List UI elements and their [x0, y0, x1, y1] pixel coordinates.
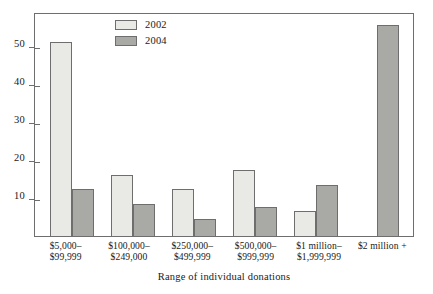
plot-frame: 20022004 — [34, 13, 414, 237]
legend-label-2002: 2002 — [145, 20, 167, 31]
plot-area — [35, 14, 413, 236]
x-axis-title: Range of individual donations — [34, 271, 414, 282]
y-tick-label: 40 — [14, 77, 25, 88]
y-tick-label: 50 — [14, 39, 25, 50]
y-tick-mark-inner — [35, 86, 40, 87]
bar-2004 — [194, 219, 216, 236]
legend-item-2002: 2002 — [115, 20, 167, 31]
bar-2002 — [233, 170, 255, 236]
bar-groups — [41, 14, 407, 236]
x-axis-label-line1: $2 million + — [358, 240, 407, 251]
x-axis-label-line1: $100,000– — [108, 240, 150, 251]
x-axis-label-line1: $250,000– — [171, 240, 213, 251]
chart-legend: 20022004 — [115, 20, 167, 46]
legend-swatch-2002 — [115, 20, 137, 30]
x-axis-label-line1: $1 million– — [296, 240, 342, 251]
x-axis-label: $1 million–$1,999,999 — [287, 240, 350, 262]
bar-group — [163, 14, 224, 236]
bar-group — [224, 14, 285, 236]
bar-2002 — [172, 189, 194, 236]
bar-2002 — [50, 42, 72, 236]
bar-group — [285, 14, 346, 236]
x-axis-label: $100,000–$249,000 — [97, 240, 160, 262]
y-tick-mark-inner — [35, 200, 40, 201]
legend-item-2004: 2004 — [115, 36, 167, 47]
x-axis-label-line2: $999,999 — [224, 251, 287, 262]
x-axis-label-line2: $499,999 — [161, 251, 224, 262]
y-tick-label: 10 — [14, 191, 25, 202]
x-axis-label: $250,000–$499,999 — [161, 240, 224, 262]
x-axis-label-line1: $5,000– — [50, 240, 82, 251]
bar-2004 — [316, 185, 338, 236]
y-tick-label: 30 — [14, 115, 25, 126]
bar-2004 — [72, 189, 94, 236]
bar-2002 — [294, 211, 316, 236]
bar-2002 — [111, 175, 133, 236]
bar-group — [102, 14, 163, 236]
bar-2004 — [133, 204, 155, 236]
y-tick-label: 20 — [14, 153, 25, 164]
bar-2004 — [255, 207, 277, 236]
legend-label-2004: 2004 — [145, 36, 167, 47]
y-tick-mark-inner — [35, 48, 40, 49]
x-axis-label-line2: $249,000 — [97, 251, 160, 262]
x-axis-label: $5,000–$99,999 — [34, 240, 97, 262]
bar-group — [346, 14, 407, 236]
bar-chart: 1020304050 20022004 $5,000–$99,999$100,0… — [0, 0, 433, 294]
y-tick-mark-inner — [35, 124, 40, 125]
x-axis-label-line2: $1,999,999 — [287, 251, 350, 262]
y-axis: 1020304050 — [0, 13, 34, 237]
x-axis-labels: $5,000–$99,999$100,000–$249,000$250,000–… — [34, 240, 414, 262]
bar-2004 — [377, 25, 399, 236]
y-tick-mark-inner — [35, 162, 40, 163]
x-axis-label-line2: $99,999 — [34, 251, 97, 262]
legend-swatch-2004 — [115, 36, 137, 46]
x-axis-label-line1: $500,000– — [235, 240, 277, 251]
x-axis-label: $2 million + — [351, 240, 414, 262]
x-axis-label: $500,000–$999,999 — [224, 240, 287, 262]
bar-group — [41, 14, 102, 236]
